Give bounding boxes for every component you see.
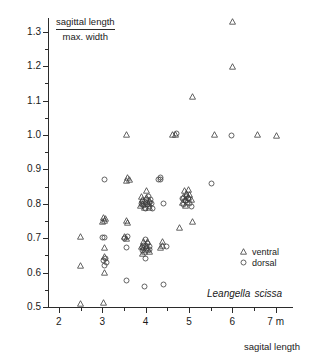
data-point-ventral (254, 131, 261, 138)
x-tick-label: 6 (230, 317, 236, 327)
x-tick-label: 5 (186, 317, 192, 327)
y-tick-major (43, 169, 49, 170)
data-point-dorsal (183, 193, 190, 200)
y-tick-label: 0.7 (27, 233, 41, 243)
data-point-dorsal (173, 130, 180, 137)
y-tick-major (43, 101, 49, 102)
data-point-ventral (77, 300, 84, 307)
legend-item-dorsal: dorsal (238, 258, 279, 269)
y-tick-label: 1.0 (27, 130, 41, 140)
data-point-dorsal (145, 193, 152, 200)
data-point-dorsal (188, 203, 195, 210)
data-point-ventral (229, 18, 236, 25)
data-point-dorsal (157, 174, 164, 181)
data-point-dorsal (141, 283, 148, 290)
y-tick-label: 1.1 (27, 96, 41, 106)
data-point-ventral (100, 299, 107, 306)
data-point-ventral (77, 262, 84, 269)
scatter-plot-figure: sagittal length max. width 0.50.60.70.80… (0, 0, 309, 357)
data-point-dorsal (139, 244, 146, 251)
y-tick-major (43, 66, 49, 67)
x-tick-label: 4 (143, 317, 149, 327)
x-tick-label: 2 (56, 317, 62, 327)
y-tick-minor (45, 118, 49, 119)
x-tick-label: 3 (99, 317, 105, 327)
x-tick-major (232, 307, 233, 313)
data-point-dorsal (146, 243, 153, 250)
y-tick-minor (45, 83, 49, 84)
y-tick-label: 0.6 (27, 268, 41, 278)
x-axis-line (48, 307, 293, 308)
data-point-ventral (124, 174, 131, 181)
y-tick-label: 0.8 (27, 199, 41, 209)
species-annotation: Leangellascissa (207, 288, 282, 299)
x-tick-minor (124, 307, 125, 311)
legend-label: dorsal (250, 258, 277, 269)
x-tick-major (189, 307, 190, 313)
data-point-dorsal (102, 255, 109, 262)
species-genus: Leangella (207, 288, 250, 299)
y-tick-minor (45, 255, 49, 256)
x-tick-minor (211, 307, 212, 311)
data-point-dorsal (228, 132, 235, 139)
data-point-ventral (77, 233, 84, 240)
species-epithet: scissa (250, 288, 282, 299)
x-tick-major (59, 307, 60, 313)
x-tick-minor (81, 307, 82, 311)
data-point-ventral (101, 269, 108, 276)
data-point-dorsal (163, 243, 170, 250)
data-point-ventral (189, 218, 196, 225)
y-tick-major (43, 238, 49, 239)
x-tick-minor (167, 307, 168, 311)
data-point-dorsal (101, 176, 108, 183)
y-tick-minor (45, 221, 49, 222)
data-point-ventral (123, 217, 130, 224)
y-tick-major (43, 204, 49, 205)
x-tick-major (102, 307, 103, 313)
data-point-ventral (273, 132, 280, 139)
triangle-icon (238, 247, 250, 258)
y-tick-minor (45, 49, 49, 50)
data-point-ventral (211, 131, 218, 138)
data-point-ventral (100, 214, 107, 221)
y-axis-line (48, 18, 49, 308)
y-tick-minor (45, 152, 49, 153)
circle-icon (238, 258, 250, 269)
y-tick-major (43, 307, 49, 308)
y-tick-label: 0.9 (27, 164, 41, 174)
data-point-dorsal (99, 234, 106, 241)
y-tick-label: 0.5 (27, 302, 41, 312)
legend-label: ventral (250, 247, 279, 258)
x-axis-title: sagital length (244, 341, 300, 352)
data-point-ventral (229, 63, 236, 70)
data-point-dorsal (160, 200, 167, 207)
data-point-dorsal (208, 180, 215, 187)
legend: ventraldorsal (238, 247, 279, 269)
data-point-ventral (101, 244, 108, 251)
data-point-ventral (123, 131, 130, 138)
y-tick-major (43, 273, 49, 274)
data-point-dorsal (123, 277, 130, 284)
data-point-dorsal (160, 281, 167, 288)
x-tick-major (276, 307, 277, 313)
x-tick-minor (254, 307, 255, 311)
y-tick-minor (45, 187, 49, 188)
data-point-ventral (189, 93, 196, 100)
data-point-dorsal (124, 233, 131, 240)
data-point-dorsal (123, 244, 130, 251)
y-tick-major (43, 32, 49, 33)
y-tick-major (43, 135, 49, 136)
y-tick-label: 1.3 (27, 27, 41, 37)
data-point-dorsal (149, 205, 156, 212)
x-tick-major (146, 307, 147, 313)
x-tick-label: 7 m (267, 317, 284, 327)
y-tick-minor (45, 290, 49, 291)
legend-item-ventral: ventral (238, 247, 279, 258)
y-tick-label: 1.2 (27, 61, 41, 71)
data-point-dorsal (142, 236, 149, 243)
data-point-dorsal (142, 255, 149, 262)
data-point-ventral (176, 224, 183, 231)
